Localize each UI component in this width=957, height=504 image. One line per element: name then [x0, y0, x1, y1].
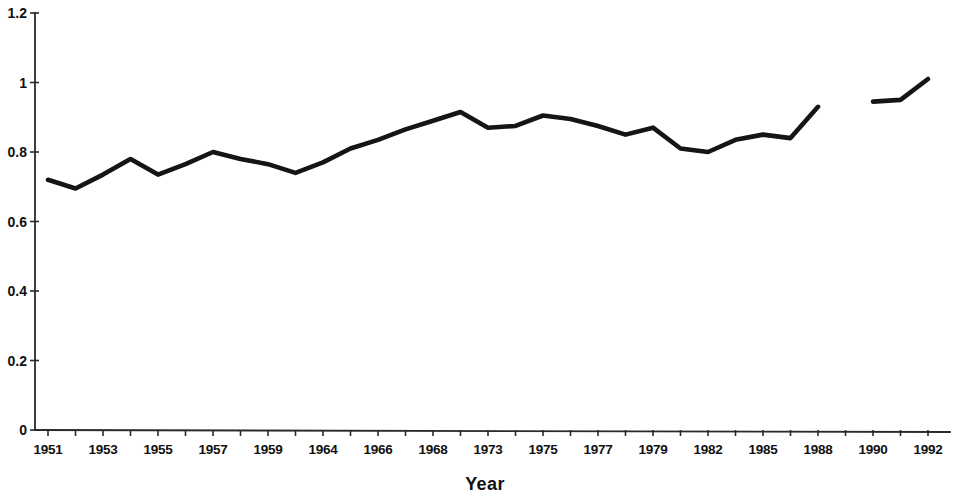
y-axis-tick-label: 0.8 [0, 145, 27, 159]
x-axis-tick-label: 1985 [748, 443, 777, 457]
chart-plot-area [0, 0, 957, 504]
x-axis-tick-label: 1959 [253, 443, 282, 457]
x-axis-tick-label: 1988 [803, 443, 832, 457]
x-axis-tick-label: 1975 [528, 443, 557, 457]
y-axis-tick-label: 0.4 [0, 284, 27, 298]
y-axis-tick-label: 1 [0, 76, 27, 90]
x-axis-title: Year [465, 474, 505, 495]
x-axis-tick-label: 1990 [858, 443, 887, 457]
y-axis-tick-label: 1.2 [0, 6, 27, 20]
x-axis-tick-label: 1968 [418, 443, 447, 457]
x-axis-tick-label: 1951 [33, 443, 62, 457]
y-axis-tick-label: 0.2 [0, 354, 27, 368]
x-axis-tick-label: 1979 [638, 443, 667, 457]
x-axis-tick-label: 1982 [693, 443, 722, 457]
x-axis-tick-label: 1973 [473, 443, 502, 457]
y-axis-tick-label: 0 [0, 423, 27, 437]
chart-axes [35, 13, 950, 432]
x-axis-tick-label: 1964 [308, 443, 337, 457]
line-chart: 00.20.40.60.811.2 1951195319551957195919… [0, 0, 957, 504]
chart-tick-marks [30, 13, 928, 436]
x-axis-tick-label: 1992 [913, 443, 942, 457]
x-axis-tick-label: 1966 [363, 443, 392, 457]
x-axis-tick-label: 1955 [143, 443, 172, 457]
y-axis-tick-label: 0.6 [0, 215, 27, 229]
x-axis-tick-label: 1953 [88, 443, 117, 457]
x-axis-tick-label: 1957 [198, 443, 227, 457]
chart-series-lines [48, 79, 928, 188]
x-axis-tick-label: 1977 [583, 443, 612, 457]
